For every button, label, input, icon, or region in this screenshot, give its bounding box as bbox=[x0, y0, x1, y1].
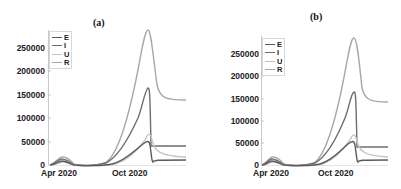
plot-area bbox=[200, 0, 401, 189]
legend-swatch bbox=[52, 45, 62, 46]
legend-label: R bbox=[277, 65, 282, 74]
plot-area bbox=[0, 0, 200, 189]
legend-swatch bbox=[265, 69, 275, 70]
legend-item-R: R bbox=[52, 59, 69, 68]
legend-item-E: E bbox=[52, 33, 69, 42]
chart-legend: E I U R bbox=[49, 31, 72, 69]
chart-panel-b: (b) 250000 200000 150000 100000 50000 0 … bbox=[200, 0, 401, 189]
legend-item-U: U bbox=[52, 50, 69, 59]
legend-item-U: U bbox=[265, 57, 282, 66]
legend-swatch bbox=[52, 62, 62, 63]
legend-item-I: I bbox=[52, 42, 69, 51]
legend-swatch bbox=[265, 61, 275, 62]
legend-item-I: I bbox=[265, 49, 282, 58]
legend-item-R: R bbox=[265, 66, 282, 75]
legend-swatch bbox=[52, 54, 62, 55]
legend-swatch bbox=[265, 44, 275, 45]
chart-legend: E I U R bbox=[262, 38, 285, 76]
legend-item-E: E bbox=[265, 40, 282, 49]
chart-panel-a: (a) 250000 200000 150000 100000 50000 0 … bbox=[0, 0, 200, 189]
legend-label: R bbox=[64, 58, 69, 67]
legend-swatch bbox=[265, 52, 275, 53]
legend-swatch bbox=[52, 37, 62, 38]
